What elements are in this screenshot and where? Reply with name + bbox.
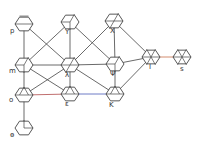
- node-ө[interactable]: ө: [10, 120, 33, 139]
- node-p[interactable]: p: [10, 16, 33, 35]
- nodes-layer: pYXmλΨIsoεKө: [9, 13, 191, 139]
- node-I[interactable]: I: [142, 49, 160, 71]
- node-label: K: [109, 101, 114, 109]
- node-label: λ: [65, 71, 69, 79]
- node-label: o: [9, 96, 13, 104]
- node-label: s: [180, 65, 184, 73]
- node-m[interactable]: m: [9, 57, 33, 75]
- node-label: Ψ: [110, 70, 116, 78]
- edges-layer: [24, 21, 182, 128]
- edge-14: [70, 65, 115, 94]
- node-label: ө: [10, 131, 14, 139]
- node-label: m: [9, 67, 16, 75]
- node-ε[interactable]: ε: [61, 86, 79, 108]
- node-Ψ[interactable]: Ψ: [106, 56, 124, 78]
- edge-5: [70, 21, 114, 65]
- graph-diagram: pYXmλΨIsoεKө: [0, 0, 208, 150]
- node-X[interactable]: X: [105, 13, 123, 35]
- node-label: Y: [64, 28, 70, 36]
- node-K[interactable]: K: [106, 86, 124, 109]
- graph-canvas: pYXmλΨIsoεKө: [0, 0, 208, 150]
- node-label: p: [10, 27, 15, 35]
- node-s[interactable]: s: [173, 49, 191, 73]
- node-o[interactable]: o: [9, 87, 33, 104]
- node-label: ε: [65, 100, 69, 108]
- node-label: X: [110, 27, 115, 35]
- node-label: I: [149, 63, 151, 71]
